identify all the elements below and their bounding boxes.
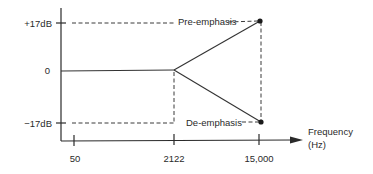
de-emphasis-endpoint: [258, 119, 263, 124]
x-axis-arrow-icon: [290, 137, 303, 144]
y-label-zero: 0: [45, 65, 50, 76]
pre-emphasis-line: [174, 21, 260, 70]
x-axis-title-line2: (Hz): [308, 139, 326, 150]
de-emphasis-label: De-emphasis: [186, 117, 242, 128]
x-label-50: 50: [70, 153, 81, 164]
x-axis-title-line1: Frequency: [308, 126, 353, 137]
y-label-plus17: +17dB: [24, 18, 52, 29]
x-axis: [61, 140, 292, 141]
pre-emphasis-endpoint: [257, 18, 262, 23]
emphasis-diagram: +17dB 0 −17dB 50 2122 15,000 Frequency (…: [0, 0, 373, 174]
pre-emphasis-label: Pre-emphasis: [178, 16, 237, 27]
x-label-15000: 15,000: [244, 153, 273, 164]
y-label-minus17: −17dB: [24, 118, 52, 129]
flat-response-line: [61, 70, 174, 71]
x-label-2122: 2122: [163, 153, 184, 164]
de-emphasis-line: [174, 70, 261, 122]
